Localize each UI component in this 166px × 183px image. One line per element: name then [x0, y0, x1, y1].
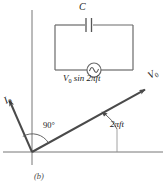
ac-source-label-expression: sin 2πft [72, 73, 101, 83]
ac-source-label: V0 sin 2πft [63, 74, 101, 84]
phase-angle-label-expression: 2πft [110, 119, 124, 129]
current-phasor-arrow [10, 101, 33, 153]
right-angle-label: 90° [43, 121, 55, 130]
ac-capacitor-phasor-figure: C V0 sin 2πft V0 I0 90° 2πft (b) [0, 0, 166, 183]
figure-canvas [0, 0, 166, 183]
panel-label: (b) [34, 172, 44, 181]
circuit-diagram [55, 18, 133, 77]
capacitor-icon [86, 18, 92, 32]
capacitor-label: C [79, 2, 86, 12]
phase-angle-label: 2πft [110, 120, 124, 129]
